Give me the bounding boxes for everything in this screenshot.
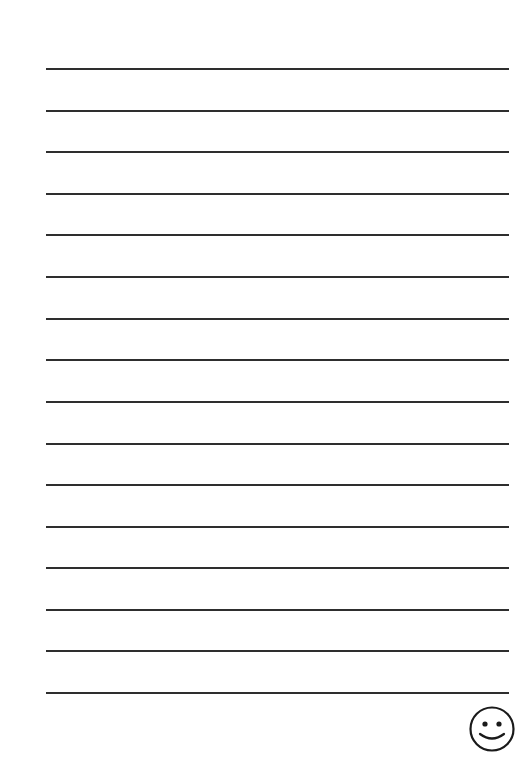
smiley-face-icon — [468, 705, 516, 753]
writing-line — [46, 193, 509, 195]
writing-line — [46, 276, 509, 278]
writing-line — [46, 609, 509, 611]
writing-line — [46, 567, 509, 569]
writing-line — [46, 401, 509, 403]
writing-line — [46, 151, 509, 153]
writing-line — [46, 359, 509, 361]
writing-line — [46, 443, 509, 445]
writing-line — [46, 68, 509, 70]
writing-line — [46, 234, 509, 236]
writing-line — [46, 650, 509, 652]
writing-line — [46, 526, 509, 528]
writing-line — [46, 110, 509, 112]
writing-line — [46, 318, 509, 320]
writing-line — [46, 484, 509, 486]
writing-line — [46, 692, 509, 694]
lined-paper-page — [0, 0, 522, 761]
